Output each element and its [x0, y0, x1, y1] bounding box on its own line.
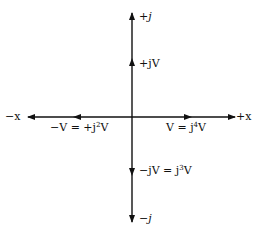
phasor-neg-v-arrowhead: [73, 114, 81, 120]
phasor-jv-arrowhead: [129, 58, 135, 66]
phasor-v-arrowhead: [184, 114, 192, 120]
phasor-jv-label: +jV: [139, 58, 160, 70]
phasor-neg-v-label: −V = +j2V: [50, 122, 108, 134]
pos-j-label: +j: [139, 11, 152, 23]
phasor-diagram: [0, 0, 265, 236]
neg-j-label: −j: [139, 213, 152, 225]
phasor-neg-jv-arrowhead: [129, 168, 135, 176]
phasor-neg-jv-label: −jV = j3V: [139, 165, 192, 177]
neg-x-label: −x: [5, 111, 20, 123]
phasor-v-label: V = j4V: [166, 122, 206, 134]
pos-x-label: +x: [236, 111, 251, 123]
